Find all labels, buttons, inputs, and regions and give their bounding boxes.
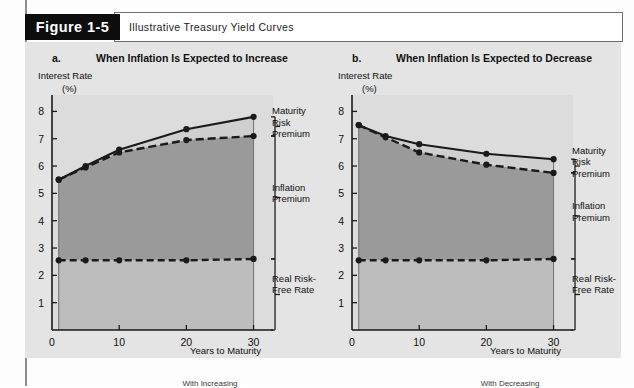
panel-b-footnote: With Decreasing	[450, 379, 570, 388]
y-tick-label: 1	[38, 297, 44, 309]
y-tick-label: 5	[338, 187, 344, 199]
y-tick-label: 6	[338, 160, 344, 172]
label-maturity-risk-premium-line-0: Maturity	[272, 105, 310, 117]
data-point	[82, 257, 88, 263]
x-tick-label: 10	[413, 336, 425, 348]
data-point	[483, 151, 489, 157]
data-point	[82, 164, 88, 170]
data-point	[382, 134, 388, 140]
label-real-risk-free-rate: Real Risk-Free Rate	[272, 273, 316, 296]
label-inflation-premium-line-1: Premium	[572, 212, 610, 224]
data-point	[550, 156, 556, 162]
data-point	[483, 257, 489, 263]
data-point	[550, 170, 556, 176]
label-inflation-premium-line-1: Premium	[272, 193, 310, 205]
x-tick-label: 10	[113, 336, 125, 348]
data-point	[56, 177, 62, 183]
label-real-risk-free-rate-line-0: Real Risk-	[572, 273, 616, 285]
data-point	[416, 149, 422, 155]
y-tick-label: 2	[38, 269, 44, 281]
y-tick-label: 8	[338, 105, 344, 117]
chart-panel-b: 123456780102030	[338, 95, 580, 348]
label-maturity-risk-premium-line-2: Premium	[272, 128, 310, 140]
x-tick-label: 20	[181, 336, 193, 348]
label-maturity-risk-premium-line-2: Premium	[572, 168, 610, 180]
y-tick-label: 4	[338, 215, 344, 227]
panel-a-footnote: With Increasing	[150, 379, 270, 388]
data-point	[483, 162, 489, 168]
label-inflation-premium: InflationPremium	[272, 182, 310, 205]
label-maturity-risk-premium-line-1: Risk	[572, 156, 610, 168]
label-inflation-premium-line-0: Inflation	[572, 200, 610, 212]
label-inflation-premium-line-0: Inflation	[272, 182, 310, 194]
x-tick-label: 20	[481, 336, 493, 348]
y-tick-label: 3	[338, 242, 344, 254]
data-point	[416, 257, 422, 263]
y-tick-label: 7	[38, 133, 44, 145]
label-real-risk-free-rate-line-0: Real Risk-	[272, 273, 316, 285]
data-point	[56, 257, 62, 263]
x-tick-label: 30	[548, 336, 560, 348]
y-tick-label: 3	[38, 242, 44, 254]
x-tick-label: 30	[248, 336, 260, 348]
x-tick-label: 0	[49, 336, 55, 348]
label-maturity-risk-premium: MaturityRiskPremium	[572, 145, 610, 180]
data-point	[116, 257, 122, 263]
real-risk-free-rate-band	[359, 259, 554, 330]
y-tick-label: 4	[38, 215, 44, 227]
data-point	[382, 257, 388, 263]
chart-panel-a: 123456780102030	[38, 95, 280, 348]
data-point	[250, 256, 256, 262]
data-point	[183, 257, 189, 263]
data-point	[356, 122, 362, 128]
data-point	[116, 149, 122, 155]
label-maturity-risk-premium-line-0: Maturity	[572, 145, 610, 157]
data-point	[183, 137, 189, 143]
label-real-risk-free-rate: Real Risk-Free Rate	[572, 273, 616, 296]
data-point	[550, 256, 556, 262]
y-tick-label: 7	[338, 133, 344, 145]
label-maturity-risk-premium: MaturityRiskPremium	[272, 105, 310, 140]
y-tick-label: 2	[338, 269, 344, 281]
y-tick-label: 6	[38, 160, 44, 172]
y-tick-label: 8	[38, 105, 44, 117]
data-point	[250, 133, 256, 139]
y-tick-label: 5	[38, 187, 44, 199]
data-point	[250, 114, 256, 120]
data-point	[183, 126, 189, 132]
real-risk-free-rate-band	[59, 259, 254, 330]
x-tick-label: 0	[349, 336, 355, 348]
y-tick-label: 1	[338, 297, 344, 309]
label-maturity-risk-premium-line-1: Risk	[272, 117, 310, 129]
label-inflation-premium: InflationPremium	[572, 200, 610, 223]
data-point	[416, 141, 422, 147]
data-point	[356, 257, 362, 263]
label-real-risk-free-rate-line-1: Free Rate	[272, 284, 316, 296]
label-real-risk-free-rate-line-1: Free Rate	[572, 284, 616, 296]
